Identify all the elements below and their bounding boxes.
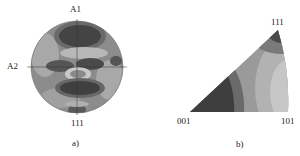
label-b-001: 001 — [177, 117, 191, 126]
label-a1: A1 — [70, 5, 81, 14]
caption-a: a) — [72, 139, 79, 148]
label-b-111: 111 — [271, 18, 284, 27]
figure-canvas — [0, 0, 300, 156]
caption-b: b) — [236, 140, 244, 149]
label-a-111: 111 — [71, 119, 84, 128]
label-a2: A2 — [7, 62, 18, 71]
label-b-101: 101 — [281, 117, 295, 126]
